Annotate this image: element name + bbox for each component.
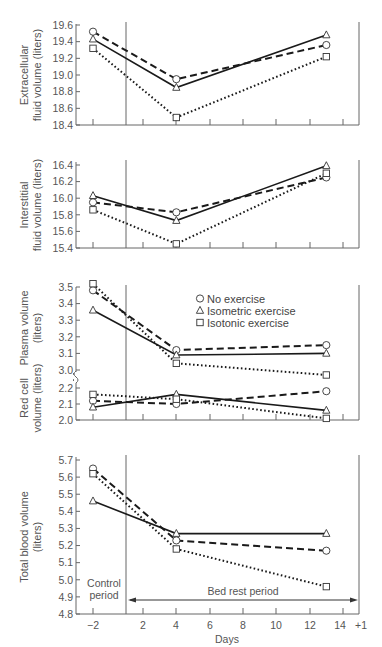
y-tick-label: 19.4 xyxy=(53,35,74,47)
y-axis-title-line: Red cell xyxy=(18,378,30,418)
series-line-triangle xyxy=(93,394,326,410)
circle-marker-icon xyxy=(89,287,96,294)
triangle-marker-icon xyxy=(323,162,330,169)
y-tick-label: 15.8 xyxy=(53,209,74,221)
circle-marker-icon xyxy=(323,388,330,395)
y-tick-label: 5.4 xyxy=(58,505,73,517)
square-marker-icon xyxy=(173,360,179,366)
x-tick-label: 4 xyxy=(173,619,179,631)
y-axis-title-line: Extracellular xyxy=(18,44,30,105)
arrow-left-icon xyxy=(128,598,136,603)
legend-label: No exercise xyxy=(207,293,265,305)
y-tick-label: 16.2 xyxy=(53,175,74,187)
triangle-marker-icon xyxy=(89,35,96,42)
y-tick-label: 5.3 xyxy=(58,522,73,534)
y-axis-title: Total blood volume(liters) xyxy=(18,491,43,583)
x-tick-label: 12 xyxy=(304,619,316,631)
y-axis-title-line: (liters) xyxy=(31,313,43,344)
y-tick-label: 15.4 xyxy=(53,242,74,254)
legend: No exerciseIsometric exerciseIsotonic ex… xyxy=(196,293,295,329)
circle-marker-icon xyxy=(173,537,180,544)
y-tick-label: 4.9 xyxy=(58,591,73,603)
y-tick-label: 3.5 xyxy=(58,281,73,293)
y-tick-label: 5.2 xyxy=(58,539,73,551)
square-marker-icon xyxy=(90,280,96,286)
circle-marker-icon xyxy=(89,199,96,206)
square-marker-icon xyxy=(90,45,96,51)
y-tick-label: 5.6 xyxy=(58,471,73,483)
series-line-square xyxy=(93,474,326,587)
circle-marker-icon xyxy=(323,41,330,48)
y-axis-title-line: volume (liters) xyxy=(31,363,43,432)
circle-marker-icon xyxy=(323,342,330,349)
x-tick-label: 6 xyxy=(207,619,213,631)
arrow-right-icon xyxy=(350,598,358,603)
y-tick-label: 18.8 xyxy=(53,85,74,97)
x-tick-label: −2 xyxy=(87,619,99,631)
control-period-label: period xyxy=(89,589,118,601)
triangle-marker-icon xyxy=(323,31,330,38)
y-tick-label: 3.3 xyxy=(58,314,73,326)
series-line-triangle xyxy=(93,166,326,221)
y-tick-label: 4.8 xyxy=(58,608,73,620)
triangle-marker-icon xyxy=(196,306,203,313)
series-line-circle xyxy=(93,32,326,80)
y-tick-label: 19.2 xyxy=(53,52,74,64)
bed-rest-fluid-volume-figure: 18.418.618.819.019.219.419.6Extracellula… xyxy=(0,0,382,647)
series-line-circle xyxy=(93,469,326,551)
y-axis-title-line: Interstitial xyxy=(18,181,30,228)
y-tick-label: 5.0 xyxy=(58,574,73,586)
circle-marker-icon xyxy=(196,295,203,302)
y-axis-title-line: fluid volume (liters) xyxy=(31,159,43,251)
x-tick-labels: −22468101214+1 xyxy=(87,619,367,631)
y-tick-label: 19.0 xyxy=(53,69,74,81)
y-axis-title: Red cellvolume (liters) xyxy=(18,363,43,432)
series-line-circle xyxy=(93,177,326,212)
y-axis-title-line: fluid volume (liters) xyxy=(31,29,43,121)
square-marker-icon xyxy=(173,546,179,552)
y-tick-label: 3.0 xyxy=(58,364,73,376)
square-marker-icon xyxy=(323,170,329,176)
circle-marker-icon xyxy=(323,547,330,554)
y-tick-label: 3.2 xyxy=(58,331,73,343)
y-axis-title: Plasma volume(liters) xyxy=(18,290,43,365)
square-marker-icon xyxy=(173,114,179,120)
triangle-marker-icon xyxy=(89,497,96,504)
square-marker-icon xyxy=(173,241,179,247)
y-tick-label: 5.7 xyxy=(58,454,73,466)
square-marker-icon xyxy=(197,319,203,325)
chart-canvas: 18.418.618.819.019.219.419.6Extracellula… xyxy=(0,0,382,647)
y-tick-label: 19.6 xyxy=(53,19,74,31)
square-marker-icon xyxy=(90,391,96,397)
y-tick-label: 5.1 xyxy=(58,556,73,568)
y-axis-title: Extracellularfluid volume (liters) xyxy=(18,29,43,121)
y-tick-label: 18.4 xyxy=(53,119,74,131)
panel-total-blood: 4.84.95.05.15.25.35.45.55.65.7Total bloo… xyxy=(18,454,359,620)
square-marker-icon xyxy=(323,372,329,378)
bed-rest-period-label: Bed rest period xyxy=(207,585,278,597)
y-tick-label: 16.4 xyxy=(53,159,74,171)
square-marker-icon xyxy=(323,583,329,589)
legend-label: Isometric exercise xyxy=(207,305,296,317)
square-marker-icon xyxy=(323,415,329,421)
series-line-triangle xyxy=(93,501,326,534)
y-tick-label: 2.0 xyxy=(58,414,73,426)
square-marker-icon xyxy=(173,396,179,402)
x-axis-title: Days xyxy=(215,633,239,645)
y-tick-label: 3.1 xyxy=(58,347,73,359)
circle-marker-icon xyxy=(173,76,180,83)
x-tick-label: 8 xyxy=(240,619,246,631)
control-period-label: Control xyxy=(87,577,121,589)
y-axis-title-line: Total blood volume xyxy=(18,491,30,583)
legend-label: Isotonic exercise xyxy=(207,317,289,329)
y-tick-label: 2.2 xyxy=(58,382,73,394)
x-tick-label: +1 xyxy=(355,619,367,631)
panel-interstitial: 15.415.615.816.016.216.4Interstitialflui… xyxy=(18,159,359,254)
y-tick-label: 5.5 xyxy=(58,488,73,500)
y-axis-title: Interstitialfluid volume (liters) xyxy=(18,159,43,251)
y-tick-label: 15.6 xyxy=(53,225,74,237)
series-line-triangle xyxy=(93,35,326,88)
y-axis-title-line: (liters) xyxy=(31,522,43,553)
square-marker-icon xyxy=(323,53,329,59)
circle-marker-icon xyxy=(173,209,180,216)
